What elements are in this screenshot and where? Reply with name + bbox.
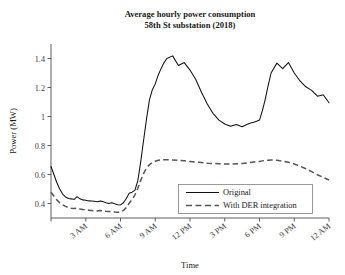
x-tick-label: 3 AM — [69, 221, 90, 240]
x-tick-label: 12 PM — [170, 221, 193, 242]
y-tick-label: 1.4 — [35, 55, 45, 64]
y-tick-label: 1 — [41, 113, 45, 122]
chart-legend: Original With DER integration — [179, 185, 313, 214]
y-tick-group: 0.40.60.811.21.4 — [35, 55, 51, 209]
chart-figure: Average hourly power consumption 58th St… — [0, 0, 345, 275]
y-axis-label: Power (MW) — [8, 108, 18, 154]
power-consumption-line-chart: Average hourly power consumption 58th St… — [0, 0, 345, 275]
y-tick-label: 0.4 — [35, 200, 45, 209]
legend-label-with-der-integration: With DER integration — [223, 201, 297, 210]
x-tick-label: 6 AM — [103, 221, 124, 240]
x-tick-label: 12 AM — [309, 221, 333, 243]
series-line-original — [51, 56, 329, 205]
x-tick-label: 9 AM — [138, 221, 159, 240]
y-tick-label: 0.8 — [35, 142, 45, 151]
chart-subtitle: 58th St substation (2018) — [145, 20, 236, 30]
x-tick-label: 6 PM — [243, 221, 263, 240]
x-tick-group: 3 AM6 AM9 AM12 PM3 PM6 PM9 PM12 AM — [51, 218, 333, 243]
x-tick-label: 3 PM — [208, 221, 228, 240]
chart-title: Average hourly power consumption — [125, 9, 256, 19]
legend-label-original: Original — [223, 188, 252, 197]
x-axis-label: Time — [181, 260, 199, 270]
y-axis: 0.40.60.811.21.4 — [35, 44, 51, 218]
x-axis: 3 AM6 AM9 AM12 PM3 PM6 PM9 PM12 AM — [51, 218, 333, 243]
x-tick-label: 9 PM — [278, 221, 298, 240]
y-tick-label: 1.2 — [35, 84, 45, 93]
y-tick-label: 0.6 — [35, 171, 45, 180]
